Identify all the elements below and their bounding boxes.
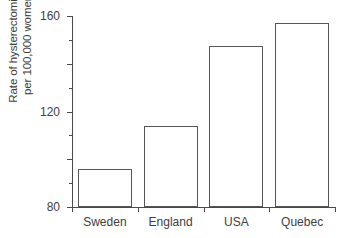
bar-chart-figure: Rate of hysterectomies per 100,000 women…	[0, 0, 343, 238]
bar-sweden	[78, 169, 132, 207]
x-axis-tick	[204, 208, 205, 212]
x-axis-tick	[138, 208, 139, 212]
y-axis-title: Rate of hysterectomies per 100,000 women	[3, 0, 37, 125]
y-axis-title-line-1: Rate of hysterectomies	[6, 0, 20, 103]
x-axis-category-label: Quebec	[281, 215, 323, 229]
x-axis-tick	[72, 208, 73, 212]
y-axis-minor-tick	[69, 88, 72, 89]
bar-quebec	[275, 23, 329, 207]
y-axis-tick: 40	[67, 159, 72, 160]
y-axis-tick-label: 160	[40, 10, 60, 22]
x-axis-category-label: Sweden	[83, 215, 126, 229]
y-axis-spine	[72, 16, 73, 208]
plot-area: 04080120160 SwedenEnglandUSAQuebec	[72, 16, 335, 207]
x-axis-category-label: England	[149, 215, 193, 229]
bar-usa	[209, 46, 263, 207]
x-axis-tick	[269, 208, 270, 212]
y-axis-title-line-2: per 100,000 women	[20, 0, 34, 95]
y-axis-minor-tick	[69, 183, 72, 184]
y-axis-tick: 80	[67, 112, 72, 113]
x-axis-category-label: USA	[224, 215, 249, 229]
y-axis-tick-label: 80	[47, 201, 60, 213]
x-axis-tick	[335, 208, 336, 212]
y-axis-tick: 120	[67, 64, 72, 65]
y-axis-tick-label: 120	[40, 106, 60, 118]
y-axis-tick: 160	[67, 16, 72, 17]
y-axis-minor-tick	[69, 135, 72, 136]
y-axis-minor-tick	[69, 40, 72, 41]
bar-england	[144, 126, 198, 207]
